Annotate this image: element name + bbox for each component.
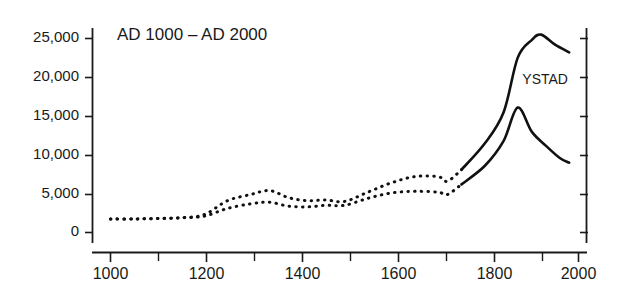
y-tick-label: 20,000	[33, 67, 79, 84]
x-tick-label: 1400	[285, 265, 321, 282]
y-tick-label: 10,000	[33, 145, 79, 162]
y-tick-label: 15,000	[33, 106, 79, 123]
x-tick-label: 2000	[561, 265, 597, 282]
chart-figure: 0 5,000 10,000 15,000 20,000 25,000	[0, 0, 623, 304]
x-tick-label: 1000	[93, 265, 129, 282]
y-tick-label: 5,000	[41, 184, 79, 201]
chart-background	[0, 0, 623, 304]
chart-svg: 0 5,000 10,000 15,000 20,000 25,000	[0, 0, 623, 304]
series-annotation-ystad: YSTAD	[522, 71, 568, 87]
x-tick-label: 1600	[381, 265, 417, 282]
page-title: AD 1000 – AD 2000	[117, 25, 267, 44]
y-tick-label: 25,000	[33, 28, 79, 45]
x-tick-label: 1800	[477, 265, 513, 282]
x-tick-label: 1200	[189, 265, 225, 282]
y-tick-label: 0	[71, 222, 79, 239]
